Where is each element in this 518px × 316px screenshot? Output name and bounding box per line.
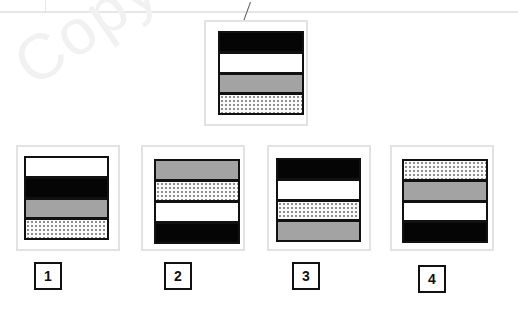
option-1-stripes: [24, 156, 109, 240]
option-4-stripes: [402, 159, 488, 243]
option-2-label[interactable]: 2: [164, 262, 192, 290]
top-divider-tick: [45, 0, 46, 12]
stripe-dotted: [220, 95, 302, 113]
stripe-white: [404, 203, 486, 221]
option-1-label[interactable]: 1: [34, 262, 62, 290]
stripe-white: [156, 203, 238, 221]
option-panel-3[interactable]: [267, 145, 371, 251]
reference-stripes: [218, 31, 304, 115]
option-3-label[interactable]: 3: [292, 262, 320, 290]
option-3-stripes: [276, 158, 361, 242]
stripe-white: [220, 54, 302, 72]
stripe-white: [26, 158, 107, 176]
stripe-dotted: [156, 182, 238, 200]
stripe-white: [278, 181, 359, 199]
stripe-black: [220, 33, 302, 51]
stripe-dotted: [404, 161, 486, 179]
stripe-gray: [220, 75, 302, 93]
option-panel-2[interactable]: [141, 145, 245, 251]
stripe-black: [26, 179, 107, 197]
stripe-gray: [278, 222, 359, 240]
stripe-gray: [156, 161, 238, 179]
top-divider: [0, 11, 518, 13]
option-2-stripes: [154, 159, 240, 244]
option-panel-4[interactable]: [390, 145, 494, 251]
stripe-dotted: [26, 220, 107, 238]
stripe-black: [156, 224, 238, 242]
reference-panel: [204, 20, 308, 126]
stripe-gray: [404, 182, 486, 200]
stripe-black: [404, 223, 486, 241]
option-4-label[interactable]: 4: [418, 265, 446, 293]
stripe-gray: [26, 200, 107, 218]
stripe-dotted: [278, 202, 359, 220]
stripe-black: [278, 160, 359, 178]
option-panel-1[interactable]: [16, 145, 120, 251]
